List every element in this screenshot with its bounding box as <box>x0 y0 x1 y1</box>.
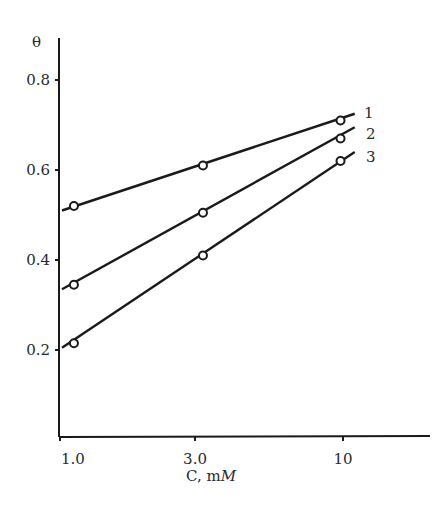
data-point-marker <box>337 117 345 125</box>
x-axis <box>59 436 430 437</box>
y-tick-label: 0.2 <box>26 341 50 359</box>
axes: θ C, mM <box>32 33 430 485</box>
series-line <box>62 127 355 289</box>
x-tick-label: 3.0 <box>183 450 207 468</box>
data-point-marker <box>70 339 78 347</box>
y-tick-label: 0.6 <box>26 161 50 179</box>
y-tick-label: 0.8 <box>26 71 50 89</box>
series-2: 2 <box>62 125 376 289</box>
y-axis-title: θ <box>32 33 41 51</box>
x-axis-title: C, mM <box>186 467 237 485</box>
data-point-marker <box>70 281 78 289</box>
x-ticks: 1.03.010 <box>60 436 353 468</box>
series-line <box>62 114 355 211</box>
series-1: 1 <box>62 104 374 211</box>
data-point-marker <box>199 209 207 217</box>
series-label: 3 <box>366 148 376 166</box>
chart: θ C, mM 0.20.40.60.8 1.03.010 123 <box>0 0 439 520</box>
data-point-marker <box>337 135 345 143</box>
series-label: 1 <box>364 104 374 122</box>
series-line <box>62 152 355 348</box>
y-tick-label: 0.4 <box>26 251 50 269</box>
data-point-marker <box>70 202 78 210</box>
data-point-marker <box>199 162 207 170</box>
x-tick-label: 1.0 <box>61 450 85 468</box>
series-3: 3 <box>62 148 376 348</box>
y-ticks: 0.20.40.60.8 <box>26 71 59 359</box>
series-label: 2 <box>366 125 376 143</box>
series-group: 123 <box>62 104 376 348</box>
x-tick-label: 10 <box>333 450 352 468</box>
data-point-marker <box>337 157 345 165</box>
data-point-marker <box>199 252 207 260</box>
